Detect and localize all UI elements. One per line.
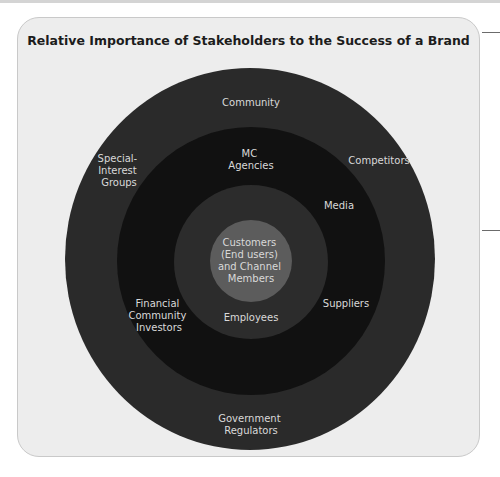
label-competitors: Competitors [348,155,409,166]
label-media: Media [324,200,354,211]
label-government-regulators: Government Regulators [218,413,284,436]
stakeholder-diagram: Community Special- Interest Groups Compe… [0,0,500,477]
label-financial-community-investors: Financial Community Investors [128,298,189,333]
label-special-interest-groups: Special- Interest Groups [98,153,141,188]
label-employees: Employees [224,312,279,323]
label-suppliers: Suppliers [323,298,369,309]
label-community: Community [222,97,280,108]
